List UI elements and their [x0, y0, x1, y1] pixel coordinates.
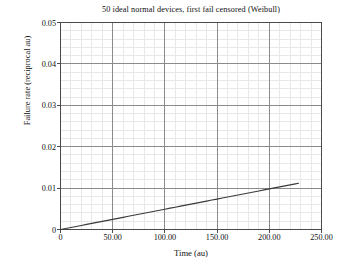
plot-canvas [0, 0, 354, 272]
data-series-line [61, 183, 299, 229]
axis-tick-marks [57, 23, 322, 234]
chart-figure: 50 ideal normal devices, first fail cens… [0, 0, 354, 272]
major-gridlines [61, 23, 322, 230]
minor-gridlines [61, 23, 322, 230]
data-series-group [61, 183, 299, 229]
plot-frame [61, 23, 322, 230]
